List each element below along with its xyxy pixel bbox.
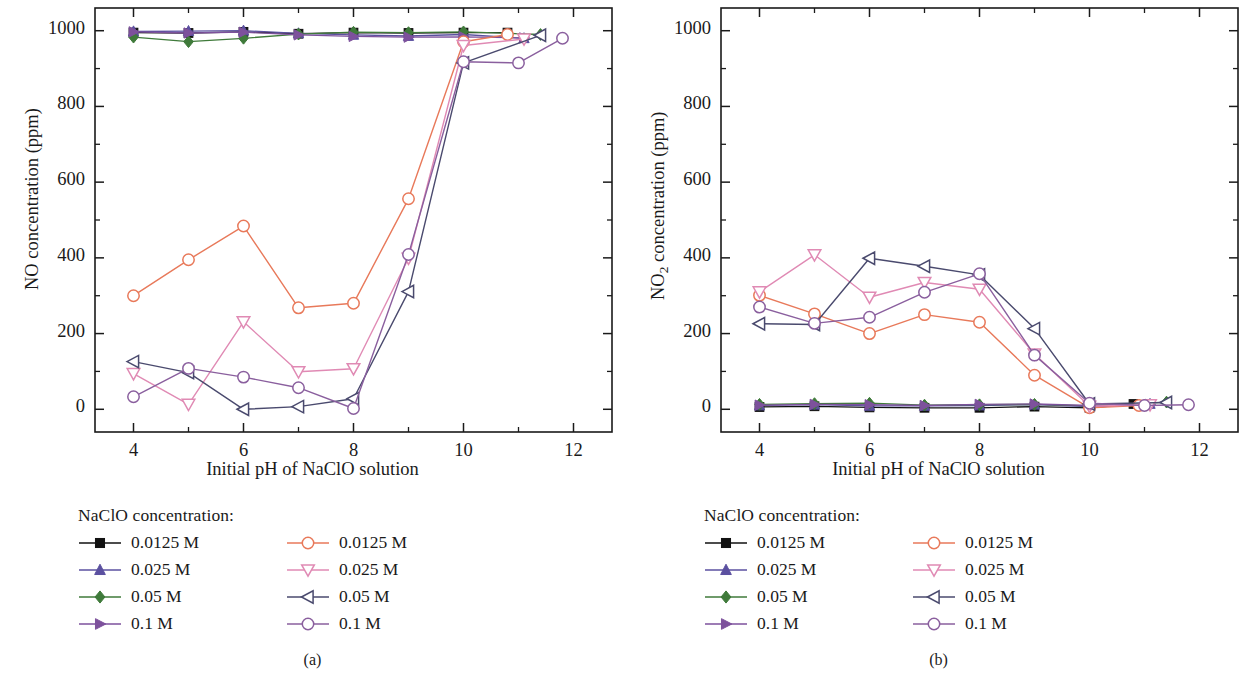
legend-item[interactable]: 0.025 M [286,556,407,583]
filled-triangle-up-icon [704,560,748,580]
open-circle-purple-icon [286,614,330,634]
legend-item[interactable]: 0.05 M [912,583,1033,610]
series-0-1-m-open- [128,33,568,415]
open-circle-purple-icon [912,614,956,634]
legend-item[interactable]: 0.025 M [704,556,912,583]
filled-diamond-icon [704,587,748,607]
y-axis-title-a-text: NO concentration (ppm) [22,108,42,290]
filled-triangle-right-icon [704,614,748,634]
legend-item[interactable]: 0.0125 M [912,529,1033,556]
legend-item[interactable]: 0.025 M [78,556,286,583]
y-tick-label: 1000 [643,18,711,39]
legend-item-label: 0.025 M [339,559,398,580]
open-triangle-down-icon [912,560,956,580]
legend-title-a: NaClO concentration: [78,505,558,526]
legend-item-label: 0.1 M [965,613,1007,634]
x-tick-label: 12 [1175,440,1225,461]
series-0-1-m-open- [754,268,1194,411]
legend-b: NaClO concentration: 0.0125 M 0.025 M 0.… [704,505,1184,637]
x-tick-label: 8 [329,440,379,461]
legend-item[interactable]: 0.0125 M [286,529,407,556]
filled-diamond-icon [78,587,122,607]
legend-item-label: 0.1 M [757,613,799,634]
legend-item-label: 0.1 M [339,613,381,634]
filled-triangle-right-icon [78,614,122,634]
y-tick-label: 0 [17,396,85,417]
x-tick-label: 12 [549,440,599,461]
legend-item-label: 0.05 M [965,586,1016,607]
y-tick-label: 200 [17,321,85,342]
panel-caption-b: (b) [626,651,1251,669]
plot-area-b: 468101202004006008001000 [626,0,1251,500]
y-axis-title-b-text: NO2 concentration (ppm) [648,111,668,300]
open-triangle-left-icon [912,587,956,607]
legend-item-label: 0.05 M [131,586,182,607]
y-axis-title-a: NO concentration (ppm) [22,108,43,290]
x-tick-label: 6 [845,440,895,461]
legend-item-label: 0.0125 M [965,532,1033,553]
legend-item-label: 0.025 M [757,559,816,580]
x-tick-label: 4 [109,440,159,461]
open-circle-orange-icon [286,533,330,553]
panel-caption-a: (a) [0,651,625,669]
x-tick-label: 10 [439,440,489,461]
legend-item-label: 0.0125 M [339,532,407,553]
legend-column-filled-b: 0.0125 M 0.025 M 0.05 M 0.1 M [704,529,912,637]
panel-a: 468101202004006008001000 NO concentratio… [0,0,625,684]
legend-item-label: 0.0125 M [757,532,825,553]
legend-item[interactable]: 0.05 M [78,583,286,610]
x-tick-label: 8 [955,440,1005,461]
panel-b: 468101202004006008001000 Initial pH of N… [626,0,1251,684]
legend-item[interactable]: 0.1 M [912,610,1033,637]
filled-square-icon [78,533,122,553]
legend-item-label: 0.05 M [339,586,390,607]
open-circle-orange-icon [912,533,956,553]
figure-root: 468101202004006008001000 NO concentratio… [0,0,1251,684]
legend-item-label: 0.0125 M [131,532,199,553]
series-0-0125-m-open- [128,29,513,314]
legend-a: NaClO concentration: 0.0125 M 0.025 M 0.… [78,505,558,637]
legend-item-label: 0.025 M [965,559,1024,580]
x-axis-title-a: Initial pH of NaClO solution [0,459,625,480]
open-triangle-down-icon [286,560,330,580]
x-axis-title-b: Initial pH of NaClO solution [626,459,1251,480]
series-0-0125-m-open- [754,290,1145,414]
legend-item[interactable]: 0.0125 M [704,529,912,556]
y-tick-label: 0 [643,396,711,417]
chart-a [0,0,625,500]
series-0-05-m-open- [127,29,546,415]
legend-item[interactable]: 0.05 M [704,583,912,610]
legend-item[interactable]: 0.1 M [704,610,912,637]
legend-column-open-a: 0.0125 M 0.025 M 0.05 M 0.1 M [286,529,407,637]
y-axis-title-b: NO2 concentration (ppm) [648,111,672,300]
y-tick-label: 1000 [17,18,85,39]
legend-column-filled-a: 0.0125 M 0.025 M 0.05 M 0.1 M [78,529,286,637]
plot-area-a: 468101202004006008001000 [0,0,625,500]
x-tick-label: 6 [219,440,269,461]
legend-column-open-b: 0.0125 M 0.025 M 0.05 M 0.1 M [912,529,1033,637]
legend-item[interactable]: 0.1 M [286,610,407,637]
legend-item[interactable]: 0.05 M [286,583,407,610]
chart-b [626,0,1251,500]
filled-square-icon [704,533,748,553]
legend-item[interactable]: 0.025 M [912,556,1033,583]
x-tick-label: 10 [1065,440,1115,461]
legend-item-label: 0.025 M [131,559,190,580]
filled-triangle-up-icon [78,560,122,580]
series-0-025-m-open- [753,250,1156,413]
y-tick-label: 200 [643,321,711,342]
legend-item[interactable]: 0.1 M [78,610,286,637]
legend-item-label: 0.1 M [131,613,173,634]
series-0-05-m-open- [753,252,1172,410]
legend-item-label: 0.05 M [757,586,808,607]
open-triangle-left-icon [286,587,330,607]
x-tick-label: 4 [735,440,785,461]
series-0-025-m-open- [127,34,530,411]
legend-item[interactable]: 0.0125 M [78,529,286,556]
legend-title-b: NaClO concentration: [704,505,1184,526]
